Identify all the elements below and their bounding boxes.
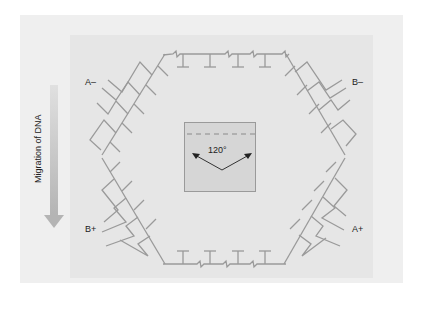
top-electrode-strand [163, 51, 289, 67]
migration-label: Migration of DNA [33, 103, 43, 183]
electrode-label-a-minus: A– [85, 77, 96, 87]
electrode-label-b-minus: B– [352, 77, 363, 87]
upper-left-electrode-strand [90, 54, 168, 155]
gel-center-box [184, 122, 256, 192]
bottom-electrode-strand [163, 251, 286, 267]
migration-arrow-icon [44, 85, 64, 228]
lower-right-electrode-strand [284, 158, 347, 264]
lower-left-electrode-strand [102, 158, 165, 264]
electrode-label-a-plus: A+ [352, 224, 363, 234]
electrode-label-b-plus: B+ [85, 224, 96, 234]
angle-arrows-icon [185, 123, 257, 193]
upper-right-electrode-strand [285, 54, 356, 155]
angle-label: 120° [208, 145, 227, 155]
